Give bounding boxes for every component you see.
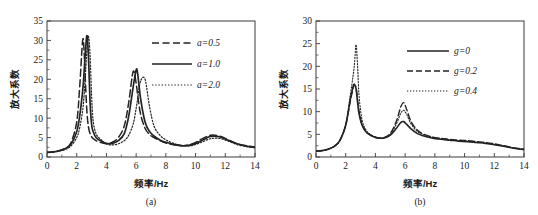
x-tick-label: 4 [104, 161, 109, 171]
y-tick-label: 15 [34, 94, 44, 104]
y-tick-label: 5 [38, 133, 43, 143]
legend-label-a-1-0: a=1.0 [197, 59, 220, 69]
x-tick-label: 4 [373, 161, 378, 171]
x-tick-label: 10 [191, 161, 201, 171]
chart-svg-a: 0246810121405101520253035a=0.5a=1.0a=2.0… [0, 0, 269, 215]
curves-group [47, 35, 255, 152]
x-tick-label: 6 [134, 161, 139, 171]
y-tick-label: 10 [303, 107, 313, 117]
y-tick-label: 0 [38, 152, 43, 162]
y-tick-label: 30 [303, 16, 313, 26]
figure-container: 0246810121405101520253035a=0.5a=1.0a=2.0… [0, 0, 538, 215]
y-tick-label: 5 [307, 130, 312, 140]
legend-label-a-0-5: a=0.5 [197, 38, 220, 48]
x-tick-label: 12 [490, 161, 500, 171]
y-tick-label: 20 [34, 75, 44, 85]
legend: g=0g=0.2g=0.4 [407, 46, 477, 96]
chart-panel-a: 0246810121405101520253035a=0.5a=1.0a=2.0… [0, 0, 269, 215]
x-tick-label: 8 [163, 161, 168, 171]
x-tick-label: 14 [519, 161, 529, 171]
x-tick-label: 2 [343, 161, 348, 171]
legend-label-g-0: g=0 [454, 46, 470, 56]
x-tick-label: 6 [403, 161, 408, 171]
x-axis-title: 频率/Hz [134, 178, 169, 189]
plot-frame [316, 21, 524, 157]
x-tick-label: 0 [314, 161, 319, 171]
y-tick-label: 25 [303, 39, 313, 49]
y-tick-label: 30 [34, 36, 44, 46]
y-tick-label: 0 [307, 152, 312, 162]
y-tick-label: 20 [303, 62, 313, 72]
panel-caption: (a) [146, 197, 157, 208]
y-tick-label: 35 [34, 16, 44, 26]
y-tick-label: 25 [34, 55, 44, 65]
x-tick-label: 12 [221, 161, 231, 171]
data-curve-a-2-0 [47, 36, 255, 152]
y-tick-label: 15 [303, 84, 313, 94]
x-tick-label: 8 [432, 161, 437, 171]
y-tick-label: 10 [34, 114, 44, 124]
legend-label-a-2-0: a=2.0 [197, 80, 220, 90]
y-axis-title: 放大系数 [9, 69, 20, 110]
x-tick-label: 2 [74, 161, 79, 171]
x-tick-label: 14 [250, 161, 260, 171]
panel-caption: (b) [414, 197, 425, 208]
x-tick-label: 10 [460, 161, 470, 171]
x-axis-title: 频率/Hz [403, 178, 438, 189]
legend-label-g-0-4: g=0.4 [454, 86, 477, 96]
legend-label-g-0-2: g=0.2 [454, 66, 477, 76]
chart-panel-b: 02468101214051015202530g=0g=0.2g=0.4频率/H… [269, 0, 538, 215]
chart-svg-b: 02468101214051015202530g=0g=0.2g=0.4频率/H… [269, 0, 538, 215]
y-axis-title: 放大系数 [278, 69, 289, 110]
curves-group [316, 45, 524, 152]
legend: a=0.5a=1.0a=2.0 [152, 38, 220, 90]
x-tick-label: 0 [45, 161, 50, 171]
